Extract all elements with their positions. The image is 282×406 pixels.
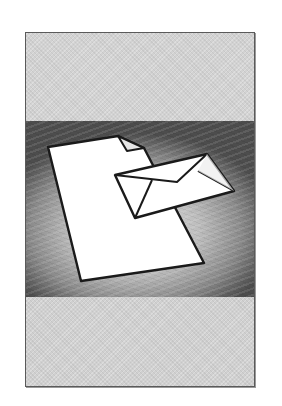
- document-icon: [48, 136, 204, 281]
- picture-frame: [25, 32, 255, 387]
- document-envelope-illustration: [26, 33, 254, 386]
